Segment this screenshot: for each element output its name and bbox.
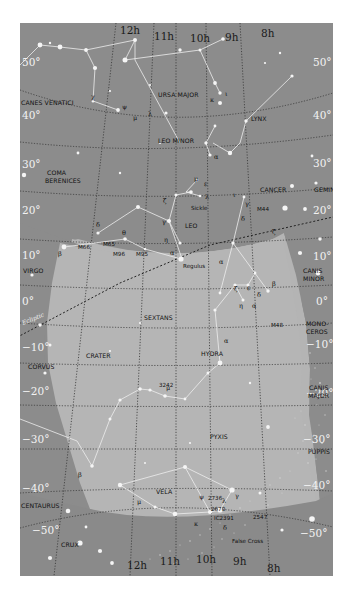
label-cancer: CANCER [260,186,287,193]
star-chart-svg: 12h 11h 10h 9h 8h 12h 11h 10h 9h 8h 50° … [20,23,333,576]
greek-eta-hya: η [239,302,243,310]
label-ngc2670: 2670 [211,506,226,512]
star-chart: 12h 11h 10h 9h 8h 12h 11h 10h 9h 8h 50° … [20,23,333,576]
greek-alpha-hya: α [224,337,229,345]
greek-sigma-hya: α [252,302,257,310]
ra-label-11h-bottom: 11h [160,555,180,567]
ra-label-11h-top: 11h [154,30,174,42]
label-centaurus: CENTAURUS [21,502,60,509]
dec-label-left-minus40: −40° [22,482,49,494]
dec-label-left-40: 40° [22,109,41,121]
greek-lambda-vel: λ [222,497,226,505]
dec-label-left-minus30: −30° [22,433,49,445]
greek-iota-cnc: ι [233,191,236,199]
greek-gamma-vel: γ [235,492,239,500]
dec-label-right-50: 50° [313,56,332,68]
greek-alpha-lyn: α [214,153,219,161]
dec-label-right-minus30: −30° [303,433,330,445]
ra-label-8h-bottom: 8h [267,562,281,574]
greek-delta-leo: δ [96,221,100,229]
label-canis-major-line1: CANIS [309,384,328,391]
label-m95: M95 [136,251,148,257]
greek-zeta-leo: ζ [163,197,167,205]
greek-delta-vel: δ [223,524,227,532]
label-ngc2736: 2736 [208,495,223,501]
greek-lambda-uma: λ [148,110,152,118]
label-regulus: Regulus [183,263,205,270]
label-ngc2547: 2547 [253,514,268,520]
dec-label-left-minus20: −20° [22,385,49,397]
label-hydra: HYDRA [201,350,224,357]
greek-alpha-cnc: α [219,258,224,266]
greek-beta-leo: β [58,250,62,258]
label-canes-venatici: CANES VENATICI [21,99,74,106]
dec-label-right-0: 0° [316,295,328,307]
label-pyxis: PYXIS [210,433,228,440]
label-monoceros-line2: CEROS [306,328,328,335]
ra-label-8h-top: 8h [261,27,275,39]
greek-delta-hya: δ [257,291,261,299]
ra-label-9h-top: 9h [225,31,239,43]
greek-psi-vel: ψ [199,493,204,501]
ra-label-9h-bottom: 9h [233,555,247,567]
label-lynx: LYNX [251,115,267,122]
greek-kappa-uma: κ [210,96,214,104]
greek-gamma-leo: γ [162,218,166,226]
label-sickle: Sickle [191,205,208,211]
dec-label-left-0: 0° [22,295,34,307]
dec-label-right-minus50: −50° [300,527,327,539]
dec-label-right-40: 40° [313,109,332,121]
label-crater: CRATER [86,352,111,359]
dec-label-left-10: 10° [22,249,41,261]
label-coma-line2: BERENICES [45,177,81,184]
label-crux: CRUX [61,541,79,548]
label-vela: VELA [156,488,173,495]
label-sextans: SEXTANS [144,314,173,321]
dec-label-left-20: 20° [22,204,41,216]
dec-label-right-30: 30° [313,157,332,169]
label-ic2391: IC2391 [214,515,234,521]
greek-delta-cnc: δ [241,215,245,223]
label-m48: M48 [271,322,283,328]
label-m66: M66 [78,244,90,250]
dec-label-left-minus50: −50° [32,524,59,536]
dec-label-right-minus40: −40° [303,479,330,491]
label-canis-minor-line2: MINOR [303,275,325,282]
greek-mu-hya: μ [166,384,170,392]
ra-label-10h-top: 10h [190,32,210,44]
label-false-cross: False Cross [232,538,263,544]
greek-chi-uma: χ [91,93,95,101]
label-corvus: CORVUS [28,363,54,370]
dec-label-right-20: 20° [313,204,332,216]
label-m44: M44 [257,206,269,212]
ra-label-12h-bottom: 12h [127,559,147,571]
label-monoceros-line1: MONO- [306,320,329,327]
greek-theta-leo: θ [122,229,126,237]
greek-mu-leo: μ [194,175,198,183]
dec-label-right-minus10: −10° [306,338,333,350]
greek-psi-uma: ψ [122,103,127,111]
label-leo: LEO [185,222,198,229]
label-virgo: VIRGO [23,267,44,274]
dec-label-right-10: 10° [313,250,332,262]
label-gemini: GEMINI [314,186,333,193]
label-puppis: PUPPIS [308,448,330,455]
greek-gamma-cnc: γ [245,200,249,208]
label-coma-line1: COMA [47,169,67,176]
greek-lambda-leo: λ [205,193,209,201]
ra-label-10h-bottom: 10h [196,553,216,565]
dec-label-left-minus10: −10° [22,341,49,353]
ra-label-12h-top: 12h [120,24,140,36]
label-ursa-major: URSA MAJOR [158,91,199,99]
dec-label-left-30: 30° [22,158,41,170]
greek-zeta-cnc: ζ [272,228,276,236]
label-canis-minor-line1: CANIS [303,267,322,274]
greek-kappa-vel: κ [194,520,198,528]
greek-mu-uma: μ [133,114,137,122]
label-canis-major-line2: MAJOR [308,392,330,400]
label-m96: M96 [113,251,125,257]
greek-beta-crt: β [78,471,82,479]
greek-iota-uma: ι [225,90,228,98]
greek-mu-vel: μ [137,498,141,506]
greek-eta-leo: η [164,236,168,244]
